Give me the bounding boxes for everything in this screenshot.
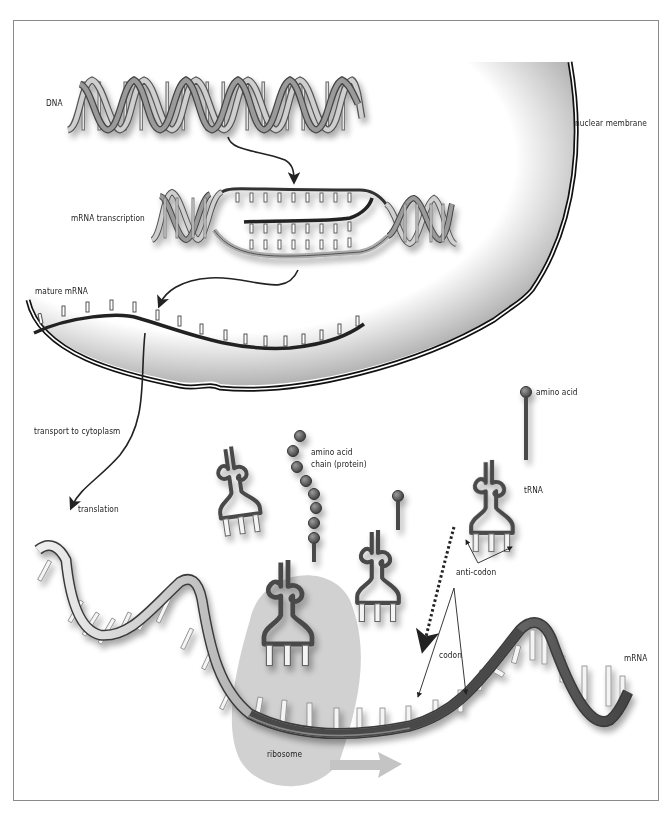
amino-acids: [288, 387, 532, 563]
label-nuclear-membrane: nuclear membrane: [575, 117, 647, 129]
label-ribosome: ribosome: [267, 748, 302, 760]
label-mrna: mRNA: [624, 652, 647, 664]
trna-labeled: [471, 460, 513, 552]
label-transport-to-cytoplasm: transport to cytoplasm: [34, 425, 120, 437]
label-translation: translation: [78, 503, 119, 515]
label-mature-mrna: mature mRNA: [35, 285, 88, 297]
label-trna: tRNA: [524, 484, 543, 496]
label-codon: codon: [439, 649, 462, 661]
label-amino-acid: amino acid: [536, 386, 578, 398]
diagram-canvas: DNA nuclear membrane mRNA transcription …: [0, 0, 672, 818]
trna-free-left: [211, 444, 263, 537]
label-mrna-transcription: mRNA transcription: [71, 212, 145, 224]
label-anti-codon: anti-codon: [456, 566, 496, 578]
dotted-arrow-trna-to-codon: [424, 527, 454, 645]
label-dna: DNA: [46, 97, 63, 109]
label-amino-acid-chain: amino acid chain (protein): [311, 446, 367, 470]
trna-approaching: [357, 530, 399, 622]
diagram-artwork: [0, 0, 672, 818]
